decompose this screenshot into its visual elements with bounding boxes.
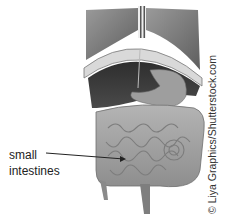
image-credit: © Liya Graphics/Shutterstock.com [206,55,218,214]
label-line-1: small [9,147,60,163]
label-line-2: intestines [9,163,60,179]
label-arrow [0,0,225,222]
small-intestines-label: small intestines [9,147,60,179]
